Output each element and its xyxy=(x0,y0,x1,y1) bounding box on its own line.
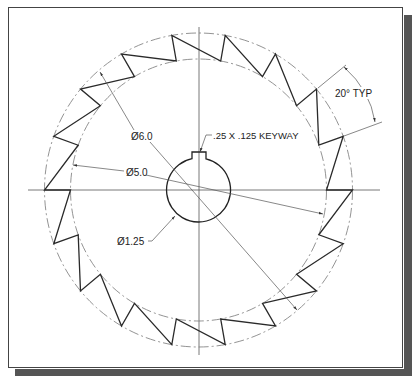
angle-label: 20° TYP xyxy=(335,88,372,99)
outer-diameter-leader-b xyxy=(150,142,297,310)
root-diameter-leader-a xyxy=(73,165,124,171)
root-diameter-label: Ø5.0 xyxy=(126,167,148,178)
dimension-lines xyxy=(73,65,382,310)
outer-diameter-label: Ø6.0 xyxy=(131,131,153,142)
sprocket-drawing: 20° TYP Ø6.0 Ø5.0 Ø1.25 .25 X .125 KEYWA… xyxy=(0,0,415,380)
keyway-label: .25 X .125 KEYWAY xyxy=(213,130,299,141)
bore-with-keyway xyxy=(167,152,231,222)
bore-diameter-label: Ø1.25 xyxy=(117,236,145,247)
keyway-leader xyxy=(200,135,212,152)
angle-extension-line-b xyxy=(344,122,382,136)
angle-extension-line-a xyxy=(318,65,346,88)
bore-diameter-leader xyxy=(148,216,175,241)
